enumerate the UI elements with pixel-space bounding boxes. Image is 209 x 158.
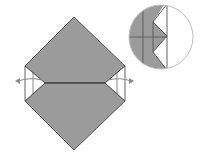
upper-colored-flap: [25, 17, 125, 83]
origami-diagram: [0, 0, 209, 158]
detail-view: [120, 0, 209, 80]
lower-colored-flap: [25, 83, 125, 150]
main-model: [15, 17, 134, 150]
right-arrowhead-icon: [129, 78, 134, 84]
left-arrowhead-icon: [15, 78, 20, 84]
